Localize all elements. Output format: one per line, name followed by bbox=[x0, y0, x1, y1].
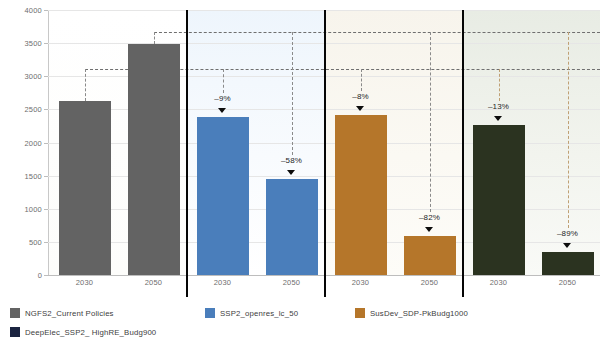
plot-area: –9%–58%–8%–82%–13%–89% bbox=[48, 10, 600, 275]
y-tick-mark-2000 bbox=[44, 143, 48, 144]
y-tick-label-4000: 4000 bbox=[25, 6, 43, 15]
legend-item-1[interactable]: SSP2_openres_lc_50 bbox=[205, 308, 298, 318]
y-tick-label-1500: 1500 bbox=[25, 171, 43, 180]
bar-chart: CO2 emissions (direct) MtCO2 –9%–58%–8%–… bbox=[0, 0, 614, 351]
y-tick-mark-3500 bbox=[44, 43, 48, 44]
annotation-arrow-icon-3-0 bbox=[494, 116, 502, 121]
legend-label-0: NGFS2_Current Policies bbox=[25, 309, 114, 318]
x-axis-labels: 20302050203020502030205020302050 bbox=[48, 278, 600, 292]
bar-annotation-3-0: –13% bbox=[469, 102, 529, 111]
legend-label-2: SusDev_SDP-PkBudg1000 bbox=[370, 309, 468, 318]
y-tick-label-3000: 3000 bbox=[25, 72, 43, 81]
annotation-arrow-icon-2-0 bbox=[356, 106, 364, 111]
legend-label-1: SSP2_openres_lc_50 bbox=[220, 309, 298, 318]
group-separator-2 bbox=[324, 10, 326, 297]
y-tick-mark-500 bbox=[44, 242, 48, 243]
y-tick-mark-4000 bbox=[44, 10, 48, 11]
reference-drop-1-2 bbox=[430, 32, 431, 212]
reference-drop-1-1 bbox=[292, 32, 293, 155]
reference-line-v-1 bbox=[154, 32, 155, 44]
reference-drop-1-3 bbox=[568, 32, 569, 228]
legend: NGFS2_Current Policies SSP2_openres_lc_5… bbox=[10, 306, 610, 348]
x-label-0-1: 2050 bbox=[134, 278, 174, 287]
bar-annotation-1-1: –58% bbox=[262, 156, 322, 165]
legend-item-2[interactable]: SusDev_SDP-PkBudg1000 bbox=[355, 308, 468, 318]
y-tick-label-0: 0 bbox=[38, 271, 42, 280]
reference-line-h-1 bbox=[154, 32, 601, 33]
x-label-1-1: 2050 bbox=[272, 278, 312, 287]
y-tick-mark-0 bbox=[44, 275, 48, 276]
bar-1-1[interactable] bbox=[266, 179, 318, 275]
legend-label-3: DeepElec_SSP2_ HighRE_Budg900 bbox=[25, 328, 156, 337]
x-label-3-1: 2050 bbox=[548, 278, 588, 287]
bar-0-1[interactable] bbox=[128, 44, 180, 275]
reference-drop-0-3 bbox=[499, 69, 500, 101]
group-separator-3 bbox=[462, 10, 464, 297]
y-tick-mark-1500 bbox=[44, 176, 48, 177]
y-tick-label-500: 500 bbox=[29, 237, 42, 246]
x-label-0-0: 2030 bbox=[65, 278, 105, 287]
bar-annotation-1-0: –9% bbox=[193, 94, 253, 103]
bar-annotation-2-0: –8% bbox=[331, 92, 391, 101]
annotation-arrow-icon-2-1 bbox=[425, 227, 433, 232]
x-label-1-0: 2030 bbox=[203, 278, 243, 287]
x-label-2-0: 2030 bbox=[341, 278, 381, 287]
y-tick-label-1000: 1000 bbox=[25, 204, 43, 213]
bar-2-1[interactable] bbox=[404, 236, 456, 275]
group-separator-1 bbox=[186, 10, 188, 297]
reference-drop-0-1 bbox=[223, 69, 224, 93]
x-label-3-0: 2030 bbox=[479, 278, 519, 287]
x-label-2-1: 2050 bbox=[410, 278, 450, 287]
bar-annotation-2-1: –82% bbox=[400, 213, 460, 222]
annotation-arrow-icon-1-0 bbox=[218, 108, 226, 113]
y-tick-mark-3000 bbox=[44, 76, 48, 77]
y-tick-mark-2500 bbox=[44, 109, 48, 110]
legend-swatch-icon-0 bbox=[10, 308, 20, 318]
reference-drop-0-2 bbox=[361, 69, 362, 91]
y-tick-label-2500: 2500 bbox=[25, 105, 43, 114]
annotation-arrow-icon-3-1 bbox=[563, 243, 571, 248]
legend-swatch-icon-1 bbox=[205, 308, 215, 318]
bar-2-0[interactable] bbox=[335, 115, 387, 275]
legend-item-3[interactable]: DeepElec_SSP2_ HighRE_Budg900 bbox=[10, 327, 156, 337]
legend-swatch-icon-2 bbox=[355, 308, 365, 318]
y-tick-mark-1000 bbox=[44, 209, 48, 210]
legend-swatch-icon-3 bbox=[10, 327, 20, 337]
y-tick-label-3500: 3500 bbox=[25, 39, 43, 48]
bar-annotation-3-1: –89% bbox=[538, 229, 598, 238]
bar-1-0[interactable] bbox=[197, 117, 249, 275]
bar-3-0[interactable] bbox=[473, 125, 525, 275]
bar-0-0[interactable] bbox=[59, 101, 111, 275]
legend-item-0[interactable]: NGFS2_Current Policies bbox=[10, 308, 114, 318]
bar-3-1[interactable] bbox=[542, 252, 594, 275]
y-tick-label-2000: 2000 bbox=[25, 138, 43, 147]
annotation-arrow-icon-1-1 bbox=[287, 170, 295, 175]
reference-line-v-0 bbox=[85, 69, 86, 101]
